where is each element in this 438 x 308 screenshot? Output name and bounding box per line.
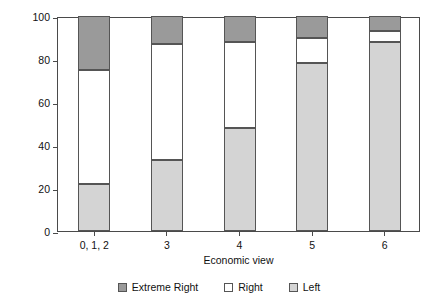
bar-segment-extreme-right xyxy=(224,16,256,42)
stacked-bar xyxy=(78,16,110,231)
x-tick-label: 6 xyxy=(345,239,425,251)
stacked-bar xyxy=(369,16,401,231)
bar-segment-right xyxy=(224,42,256,128)
legend-label: Extreme Right xyxy=(132,281,199,293)
stacked-bar xyxy=(151,16,183,231)
bar-segment-left xyxy=(369,42,401,231)
x-tick-label: 3 xyxy=(127,239,207,251)
y-tick-mark xyxy=(53,18,58,19)
bar-segment-left xyxy=(78,184,110,231)
y-tick-label: 60 xyxy=(38,97,50,109)
bar-segment-right xyxy=(296,38,328,64)
legend-item: Extreme Right xyxy=(118,281,199,293)
y-tick-label: 40 xyxy=(38,140,50,152)
bar-segment-right xyxy=(78,70,110,184)
bar-segment-extreme-right xyxy=(78,16,110,70)
x-tick-mark xyxy=(312,231,313,236)
legend-label: Right xyxy=(238,281,263,293)
y-tick-label: 80 xyxy=(38,54,50,66)
stacked-bar xyxy=(296,16,328,231)
y-tick-mark xyxy=(53,233,58,234)
bar-segment-left xyxy=(224,128,256,231)
x-tick-mark xyxy=(384,231,385,236)
legend-item: Right xyxy=(224,281,263,293)
stacked-bar xyxy=(224,16,256,231)
y-tick-mark xyxy=(53,190,58,191)
bar-segment-extreme-right xyxy=(296,16,328,38)
legend-swatch-icon xyxy=(118,283,127,292)
bar-segment-extreme-right xyxy=(151,16,183,44)
plot-area: Percentage 020406080100 0, 1, 23456 xyxy=(57,17,420,232)
y-tick-label: 20 xyxy=(38,183,50,195)
bar-segment-extreme-right xyxy=(369,16,401,31)
x-tick-mark xyxy=(166,231,167,236)
y-tick-label: 0 xyxy=(44,226,50,238)
y-tick-mark xyxy=(53,147,58,148)
x-tick-mark xyxy=(239,231,240,236)
legend: Extreme RightRightLeft xyxy=(0,281,438,293)
x-tick-label: 4 xyxy=(200,239,280,251)
y-tick-mark xyxy=(53,104,58,105)
x-tick-label: 5 xyxy=(272,239,352,251)
legend-item: Left xyxy=(289,281,321,293)
bar-segment-right xyxy=(369,31,401,42)
legend-label: Left xyxy=(303,281,321,293)
y-tick-label: 100 xyxy=(32,11,50,23)
bar-segment-right xyxy=(151,44,183,160)
legend-swatch-icon xyxy=(224,283,233,292)
legend-swatch-icon xyxy=(289,283,298,292)
bar-segment-left xyxy=(151,160,183,231)
chart-figure: Percentage 020406080100 0, 1, 23456 Econ… xyxy=(0,0,438,308)
y-tick-mark xyxy=(53,61,58,62)
x-axis-title: Economic view xyxy=(57,254,420,266)
x-tick-label: 0, 1, 2 xyxy=(54,239,134,251)
x-tick-mark xyxy=(94,231,95,236)
bar-segment-left xyxy=(296,63,328,231)
